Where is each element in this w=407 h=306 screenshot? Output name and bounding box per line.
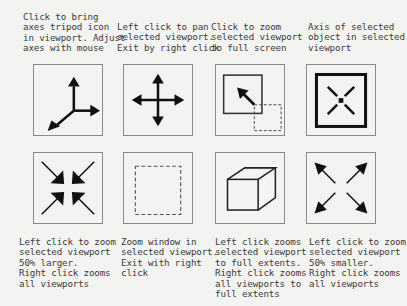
zoom-window-button[interactable] xyxy=(123,152,193,224)
caption-zoom-in: Left click to zoom selected viewport 50%… xyxy=(19,237,116,289)
caption-full-screen: Click to zoom selected viewport to full … xyxy=(211,22,302,53)
object-axis-icon xyxy=(307,65,375,135)
caption-zoom-out: Left click to zoom selected viewport 50%… xyxy=(309,237,406,289)
caption-pan: Left click to pan selected viewport. Exi… xyxy=(117,22,219,53)
pan-button[interactable] xyxy=(123,64,193,136)
full-screen-button[interactable] xyxy=(215,64,285,136)
caption-axis: Axis of selected object in selected view… xyxy=(308,22,405,53)
axis-button[interactable] xyxy=(306,64,376,136)
zoom-out-button[interactable] xyxy=(306,152,376,224)
zoom-full-screen-icon xyxy=(216,65,284,135)
zoom-out-arrows-icon xyxy=(307,153,375,223)
zoom-window-icon xyxy=(124,153,192,223)
caption-tripod: Click to bring axes tripod icon in viewp… xyxy=(23,12,125,54)
tripod-button[interactable] xyxy=(33,64,103,136)
zoom-in-button[interactable] xyxy=(33,152,103,224)
pan-arrows-icon xyxy=(124,65,192,135)
caption-zoom-extents: Left click zooms selected viewport to fu… xyxy=(215,237,306,299)
zoom-in-arrows-icon xyxy=(34,153,102,223)
zoom-extents-button[interactable] xyxy=(215,152,285,224)
caption-zoom-window: Zoom window in selected viewport. Exit w… xyxy=(121,237,218,279)
axes-tripod-icon xyxy=(34,65,102,135)
zoom-extents-cube-icon xyxy=(216,153,284,223)
